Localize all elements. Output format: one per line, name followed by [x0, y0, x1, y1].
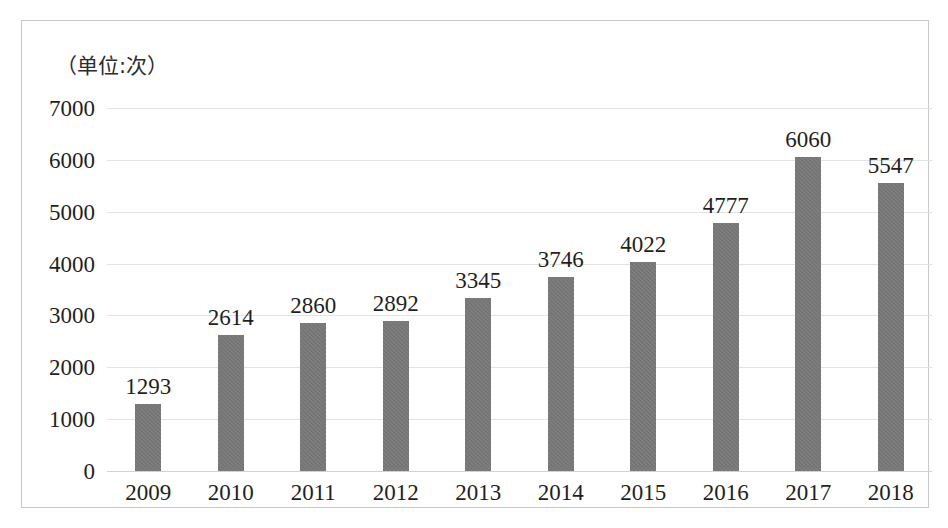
x-axis-tick-label: 2015: [602, 479, 685, 507]
x-axis-tick-label: 2013: [437, 479, 520, 507]
gridline: [107, 471, 932, 472]
x-axis-tick-label: 2009: [107, 479, 190, 507]
x-axis-tick-label: 2018: [850, 479, 933, 507]
bar-value-label: 2892: [373, 292, 419, 315]
chart-frame: （单位:次） 01000200030004000500060007000 129…: [21, 20, 929, 508]
bar[interactable]: [465, 298, 491, 471]
bar[interactable]: [383, 321, 409, 471]
unit-label: （单位:次）: [56, 49, 168, 79]
bar-value-label: 2614: [208, 306, 254, 329]
y-axis-tick-label: 4000: [49, 252, 95, 275]
bar[interactable]: [548, 277, 574, 471]
x-axis-tick-label: 2010: [190, 479, 273, 507]
x-axis-tick-label: 2011: [272, 479, 355, 507]
x-axis-tick-label: 2017: [767, 479, 850, 507]
bar-value-label: 6060: [785, 128, 831, 151]
y-axis-tick-label: 3000: [49, 304, 95, 327]
x-axis-ticks: 2009201020112012201320142015201620172018: [107, 479, 932, 513]
bar-value-label: 1293: [125, 375, 171, 398]
bar-value-label: 2860: [290, 294, 336, 317]
y-axis-tick-label: 7000: [49, 97, 95, 120]
y-axis-tick-label: 2000: [49, 356, 95, 379]
bar-slot[interactable]: 5547: [850, 108, 933, 471]
bar-series: 1293261428602892334537464022477760605547: [107, 108, 932, 471]
bar[interactable]: [795, 157, 821, 471]
bar-slot[interactable]: 3746: [520, 108, 603, 471]
y-axis-tick-label: 6000: [49, 148, 95, 171]
bar[interactable]: [218, 335, 244, 471]
bar-value-label: 4022: [620, 233, 666, 256]
bar-slot[interactable]: 2860: [272, 108, 355, 471]
x-axis-tick-label: 2016: [685, 479, 768, 507]
bar-value-label: 3345: [455, 269, 501, 292]
x-axis-tick-label: 2012: [355, 479, 438, 507]
bar[interactable]: [300, 323, 326, 471]
bar-value-label: 5547: [868, 154, 914, 177]
bar-slot[interactable]: 2614: [190, 108, 273, 471]
bar[interactable]: [135, 404, 161, 471]
bar-value-label: 3746: [538, 248, 584, 271]
bar-slot[interactable]: 4777: [685, 108, 768, 471]
y-axis-tick-label: 5000: [49, 200, 95, 223]
x-axis-tick-label: 2014: [520, 479, 603, 507]
y-axis-tick-label: 0: [84, 460, 96, 483]
y-axis-tick-label: 1000: [49, 408, 95, 431]
chart-page: （单位:次） 01000200030004000500060007000 129…: [0, 0, 948, 528]
bar[interactable]: [630, 262, 656, 471]
bar-slot[interactable]: 3345: [437, 108, 520, 471]
plot-area: 01000200030004000500060007000 1293261428…: [107, 108, 932, 471]
bar[interactable]: [878, 183, 904, 471]
bar-slot[interactable]: 1293: [107, 108, 190, 471]
bar-slot[interactable]: 2892: [355, 108, 438, 471]
bar-slot[interactable]: 4022: [602, 108, 685, 471]
bar-value-label: 4777: [703, 194, 749, 217]
bar-slot[interactable]: 6060: [767, 108, 850, 471]
bar[interactable]: [713, 223, 739, 471]
